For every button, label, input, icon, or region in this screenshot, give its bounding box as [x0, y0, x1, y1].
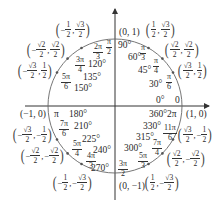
point-label-0-1: (0, 1)	[119, 28, 140, 38]
unit-circle-graphic	[0, 0, 218, 209]
coord-210: (−√32,−12)	[12, 126, 53, 143]
coord-30: (√32,12)	[177, 62, 208, 79]
deg-120: 120°	[88, 60, 106, 70]
coord-60: (12,√32)	[145, 21, 176, 38]
deg-300: 300°	[124, 144, 142, 154]
rad-5pi-4-label: 5π4	[72, 140, 82, 158]
deg-135: 135°	[83, 73, 101, 83]
rad-pi-4: π4	[153, 57, 159, 75]
point-label-0-neg1: (0, −1)	[119, 182, 145, 192]
coord-45: (√22,√22)	[164, 41, 199, 58]
deg-270: 270°	[91, 164, 109, 174]
rad-0: 0	[175, 96, 180, 106]
deg-30: 30°	[149, 80, 162, 90]
coord-330: (√32,−12)	[177, 126, 213, 143]
coord-315: (√22,−√22)	[166, 150, 206, 167]
deg-360: 360°	[149, 110, 167, 120]
deg-45: 45°	[138, 66, 151, 76]
coord-240: (−12,−√32)	[52, 174, 93, 191]
deg-150: 150°	[74, 84, 92, 94]
point-label-1-0: (1, 0)	[186, 110, 207, 120]
deg-315: 315°	[136, 133, 154, 143]
deg-180: 180°	[69, 110, 87, 120]
deg-210: 210°	[74, 122, 92, 132]
deg-225: 225°	[82, 135, 100, 145]
deg-90: 90°	[118, 41, 131, 51]
coord-300: (12,−√32)	[144, 174, 180, 191]
coord-225: (−√22,−√22)	[20, 147, 65, 164]
coord-120: (−12,√32)	[55, 21, 91, 38]
rad-pi-2: π2	[106, 38, 112, 56]
deg-330: 330°	[143, 122, 161, 132]
point-label-neg1-0: (−1, 0)	[20, 110, 46, 120]
deg-0: 0°	[156, 96, 165, 106]
rad-pi-3: π3	[140, 44, 146, 62]
rad-7pi-6: 7π6	[59, 120, 69, 138]
coord-150: (−√32,12)	[17, 62, 53, 79]
rad-3pi-2: 3π2	[118, 160, 128, 178]
rad-11pi-6: 11π6	[163, 124, 177, 142]
rad-pi: π	[54, 110, 59, 120]
coord-135: (−√22,√22)	[26, 41, 66, 58]
rad-2pi: 2π	[167, 110, 177, 120]
rad-5pi-3: 5π3	[138, 152, 148, 170]
rad-5pi-6: 5π6	[61, 73, 71, 91]
rad-pi-6: π6	[166, 73, 172, 91]
